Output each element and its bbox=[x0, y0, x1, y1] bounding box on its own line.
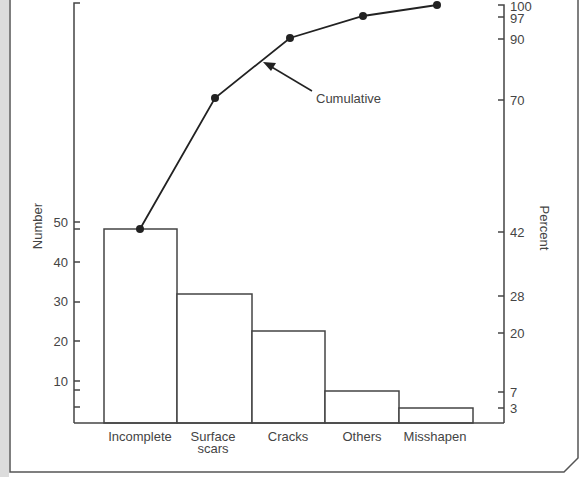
right-tick-42: 42 bbox=[510, 225, 524, 240]
right-axis-ticks bbox=[498, 17, 504, 408]
left-tick-30: 30 bbox=[54, 294, 68, 309]
category-misshapen: Misshapen bbox=[404, 429, 467, 444]
pareto-chart: 50 40 30 20 10 Number 100 97 90 70 42 28… bbox=[0, 0, 582, 477]
right-tick-90: 90 bbox=[510, 32, 524, 47]
right-tick-3: 3 bbox=[510, 401, 517, 416]
right-tick-97: 97 bbox=[510, 11, 524, 26]
right-tick-28: 28 bbox=[510, 289, 524, 304]
bar-misshapen bbox=[399, 408, 473, 423]
right-axis bbox=[498, 5, 504, 423]
left-tick-20: 20 bbox=[54, 334, 68, 349]
bar-incomplete bbox=[104, 229, 177, 423]
bar-surface-scars bbox=[177, 294, 252, 423]
left-axis bbox=[74, 3, 80, 423]
right-axis-label: Percent bbox=[537, 206, 552, 251]
right-tick-70: 70 bbox=[510, 93, 524, 108]
bars bbox=[104, 229, 473, 423]
right-tick-7: 7 bbox=[510, 385, 517, 400]
annotation-arrow bbox=[270, 66, 312, 91]
category-cracks: Cracks bbox=[268, 429, 309, 444]
category-others: Others bbox=[342, 429, 382, 444]
category-surface-scars-line2: scars bbox=[197, 441, 229, 456]
bar-others bbox=[325, 391, 399, 423]
left-tick-50: 50 bbox=[54, 215, 68, 230]
left-tick-10: 10 bbox=[54, 374, 68, 389]
left-tick-40: 40 bbox=[54, 255, 68, 270]
arrow-head-icon bbox=[263, 62, 276, 71]
category-incomplete: Incomplete bbox=[108, 429, 172, 444]
right-tick-20: 20 bbox=[510, 326, 524, 341]
bar-cracks bbox=[252, 331, 325, 423]
left-axis-ticks bbox=[74, 222, 80, 407]
annotation-cumulative: Cumulative bbox=[316, 91, 381, 106]
cumulative-points bbox=[136, 1, 441, 233]
left-axis-label: Number bbox=[30, 202, 45, 249]
